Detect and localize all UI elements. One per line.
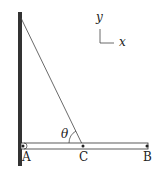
point-b [146,145,149,148]
label-a: A [21,150,31,164]
axis-y-label: y [95,10,103,24]
label-b: B [143,150,152,164]
axis-x-label: x [119,35,126,49]
axes-icon [100,29,114,43]
point-c [82,145,85,148]
angle-arc [69,131,76,143]
cable [21,18,83,146]
label-c: C [79,150,88,164]
point-a [22,145,25,148]
beam-diagram: θ A C B y x [0,0,162,173]
theta-label: θ [61,127,69,141]
